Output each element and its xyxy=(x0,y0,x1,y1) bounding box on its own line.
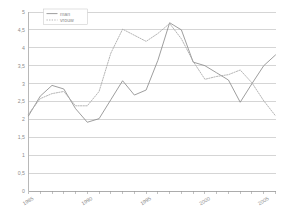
y-axis-tick-label: 1 xyxy=(22,152,25,158)
y-axis-tick-label: 5 xyxy=(22,9,25,15)
y-axis-tick-label: 0,5 xyxy=(18,170,25,176)
y-axis-tick-labels: 54,543,532,521,510,50 xyxy=(18,9,25,194)
chart-legend: manvrouw xyxy=(44,9,88,25)
x-axis-tick-labels: 19851990199520002005 xyxy=(22,195,270,206)
y-axis-tick-label: 4 xyxy=(22,45,25,51)
y-axis-tick-label: 0 xyxy=(22,188,25,194)
x-axis-tick-label: 2005 xyxy=(257,195,270,206)
x-axis-tick-label: 1990 xyxy=(80,195,93,206)
line-chart: 54,543,532,521,510,50 198519901995200020… xyxy=(0,0,285,216)
x-axis-tick-label: 1985 xyxy=(22,195,35,206)
y-axis-tick-label: 3 xyxy=(22,81,25,87)
y-axis-tick-label: 3,5 xyxy=(18,63,25,69)
y-axis-tick-label: 1,5 xyxy=(18,134,25,140)
chart-canvas: 54,543,532,521,510,50 198519901995200020… xyxy=(0,0,285,216)
data-series xyxy=(29,23,276,123)
y-axis-tick-label: 2,5 xyxy=(18,98,25,104)
x-axis-ticks xyxy=(29,191,276,194)
gridlines xyxy=(29,12,276,191)
series-line-vrouw xyxy=(29,23,276,115)
y-axis-tick-label: 4,5 xyxy=(18,27,25,33)
legend-label-vrouw: vrouw xyxy=(60,17,74,23)
y-axis-tick-label: 2 xyxy=(22,116,25,122)
x-axis-tick-label: 2000 xyxy=(198,195,211,206)
legend-label-man: man xyxy=(60,11,70,17)
x-axis-tick-label: 1995 xyxy=(139,195,152,206)
